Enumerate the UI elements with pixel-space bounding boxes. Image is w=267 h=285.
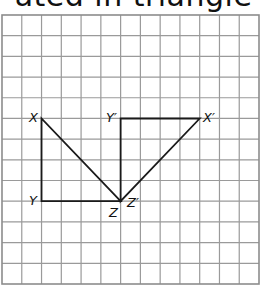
grid-border xyxy=(2,15,259,284)
coordinate-grid-diagram: X Y Z Y′ X′ Z′ xyxy=(0,0,267,285)
label-z-prime: Z′ xyxy=(126,195,139,210)
grid-lines xyxy=(2,15,259,284)
label-x: X xyxy=(28,110,39,125)
label-x-prime: X′ xyxy=(202,110,215,125)
label-z: Z xyxy=(108,205,119,220)
label-y: Y xyxy=(29,193,38,208)
label-y-prime: Y′ xyxy=(106,110,117,125)
